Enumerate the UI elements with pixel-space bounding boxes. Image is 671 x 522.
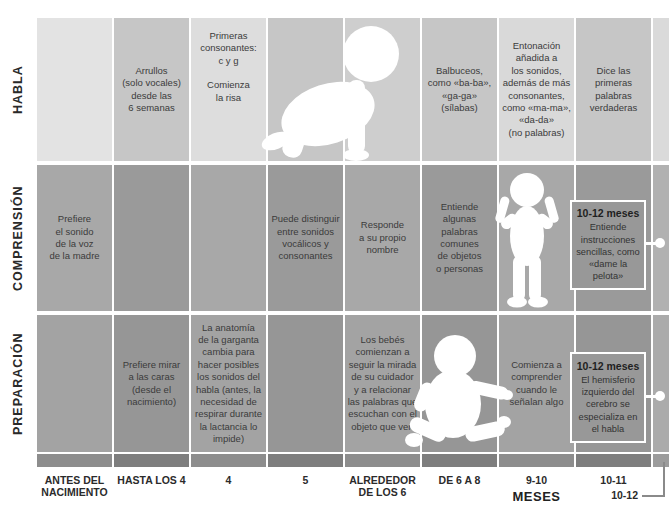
row-label-comprension: COMPRENSIÓN <box>2 165 34 311</box>
axis-label-antes-del-nacimiento: ANTES DEL NACIMIENTO <box>37 474 112 498</box>
row-label-preparacion: PREPARACIÓN <box>2 315 34 452</box>
cell-r1-c1 <box>37 18 112 161</box>
axis-label-4: 4 <box>191 474 266 486</box>
cell-r2-c1: Prefiere el sonido de la voz de la madre <box>37 165 112 311</box>
callout-body: El hemisferio izquierdo del cerebro se e… <box>579 374 638 435</box>
axis-label-10-11: 10-11 <box>576 474 651 486</box>
bracket-line-vertical <box>663 462 665 497</box>
axis-label-hasta-los-4: HASTA LOS 4 <box>114 474 189 486</box>
cell-r2-c2 <box>114 165 189 311</box>
cell-r1-c2: Arrullos (solo vocales) desde las 6 sema… <box>114 18 189 161</box>
standing-baby-icon <box>495 172 559 310</box>
axis-label-10-12: 10-12 <box>558 489 638 501</box>
infographic-language-development: HABLA COMPRENSIÓN PREPARACIÓN Arrullos (… <box>0 0 671 522</box>
callout-title: 10-12 meses <box>577 207 639 219</box>
callout-body: Entiende instrucciones sencillas, como «… <box>574 221 642 282</box>
callout-title: 10-12 meses <box>577 360 639 372</box>
axis-label-de-6-a-8: DE 6 A 8 <box>422 474 497 486</box>
cell-r1-c8: Dice las primeras palabras verdaderas <box>576 18 651 161</box>
cell-r3-c4 <box>268 315 343 452</box>
cell-r3-c2: Prefiere mirar a las caras (desde el nac… <box>114 315 189 452</box>
cell-r3-c1 <box>37 315 112 452</box>
axis-label-alrededor-de-los-6: ALREDEDOR DE LOS 6 <box>345 474 420 498</box>
callout-connector-dot <box>655 391 665 401</box>
cell-r1-c6: Balbuceos, como «ba-ba», «ga-ga» (sílaba… <box>422 18 497 161</box>
cell-r3-c9 <box>653 315 669 452</box>
bracket-line-horizontal <box>642 495 665 497</box>
cell-r3-c3: La anatomía de la garganta cambia para h… <box>191 315 266 452</box>
row-label-habla: HABLA <box>2 18 34 161</box>
cell-r1-c3: Primeras consonantes: c y g Comienza la … <box>191 18 266 161</box>
axis-label-9-10: 9-10 <box>499 474 574 486</box>
callout-connector-dot <box>655 238 665 248</box>
cell-r2-c3 <box>191 165 266 311</box>
cell-r2-c5: Responde a su propio nombre <box>345 165 420 311</box>
cell-r1-c7: Entonación añadida a los sonidos, además… <box>499 18 574 161</box>
cell-r2-c6: Entiende algunas palabras comunes de obj… <box>422 165 497 311</box>
crawling-baby-icon <box>258 22 408 162</box>
sitting-baby-icon <box>405 332 513 460</box>
callout-preparacion-10-12: 10-12 meses El hemisferio izquierdo del … <box>570 352 646 443</box>
cell-r1-c9 <box>653 18 669 161</box>
axis-label-5: 5 <box>268 474 343 486</box>
cell-r2-c4: Puede distinguir entre sonidos vocálicos… <box>268 165 343 311</box>
timeline-bar <box>37 454 669 467</box>
callout-comprension-10-12: 10-12 meses Entiende instrucciones senci… <box>570 200 646 290</box>
